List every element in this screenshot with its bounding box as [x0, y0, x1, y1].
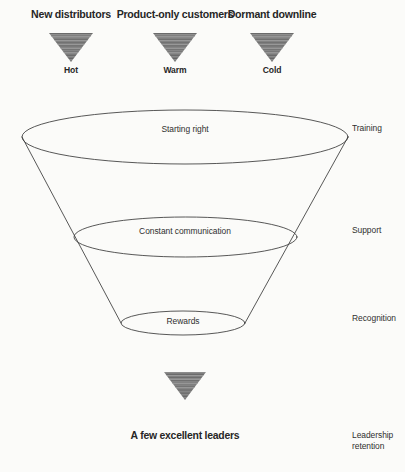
- side-label-support: Support: [352, 225, 381, 236]
- side-label-recognition: Recognition: [352, 313, 396, 324]
- side-label-leadership: Leadership: [352, 430, 393, 441]
- funnel-diagram-page: New distributors Product-only customers …: [0, 0, 405, 472]
- stage-label-constant-communication: Constant communication: [90, 226, 280, 237]
- input-temperature-cold: Cold: [226, 65, 319, 76]
- outcome-label: A few excellent leaders: [92, 429, 278, 442]
- stage-label-rewards: Rewards: [88, 316, 278, 327]
- input-temperature-hot: Hot: [25, 65, 118, 76]
- input-temperature-warm: Warm: [129, 65, 222, 76]
- funnel-body: [22, 110, 348, 335]
- input-triangle-dormant-downline: [248, 33, 296, 62]
- outcome-triangle: [162, 372, 208, 400]
- input-triangle-product-only-customers: [151, 33, 199, 62]
- input-heading-dormant-downline: Dormant downline: [206, 8, 338, 21]
- stage-label-starting-right: Starting right: [90, 124, 280, 135]
- side-label-retention: retention: [352, 441, 384, 452]
- side-label-training: Training: [352, 123, 382, 134]
- input-triangle-new-distributors: [47, 33, 95, 62]
